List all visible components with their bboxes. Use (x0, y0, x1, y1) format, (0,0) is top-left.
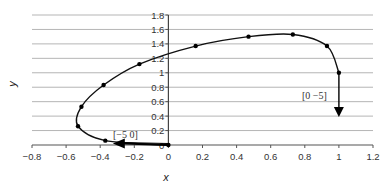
y-tick-label: 0.2 (151, 125, 164, 136)
data-point (246, 34, 250, 38)
data-point (193, 44, 197, 48)
vector-arrows (113, 73, 344, 149)
x-tick-label: 0 (166, 151, 171, 162)
x-tick-label: −0.8 (23, 151, 42, 162)
x-tick-label: 0.6 (264, 151, 277, 162)
y-tick-label: 0.4 (151, 111, 164, 122)
x-tick-label: 1.2 (366, 151, 379, 162)
axes (32, 15, 373, 148)
data-point (137, 62, 141, 66)
tick-labels: 00.20.40.60.811.21.41.61.8−0.8−0.6−0.4−0… (23, 10, 380, 163)
x-tick-label: 0.4 (230, 151, 243, 162)
data-point (325, 44, 329, 48)
data-point (291, 32, 295, 36)
x-tick-label: 1 (336, 151, 341, 162)
y-tick-label: 0.8 (151, 82, 164, 93)
y-tick-label: 1.4 (151, 38, 164, 49)
data-point (76, 124, 80, 128)
vector-label-down: [0 −5] (302, 90, 327, 101)
data-point (79, 105, 83, 109)
arrow-left-icon (113, 139, 125, 149)
x-axis-title: x (162, 171, 169, 183)
gridlines (32, 15, 373, 131)
x-tick-label: −0.6 (57, 151, 76, 162)
x-tick-label: −0.4 (91, 151, 110, 162)
trajectory-chart: 00.20.40.60.811.21.41.61.8−0.8−0.6−0.4−0… (0, 0, 390, 186)
x-tick-label: 0.2 (196, 151, 209, 162)
data-point (103, 138, 107, 142)
y-tick-label: 1 (159, 67, 164, 78)
y-tick-label: 0.6 (151, 96, 164, 107)
data-point (101, 83, 105, 87)
y-tick-label: 1.8 (151, 10, 164, 21)
y-axis-title: y (6, 80, 18, 88)
y-tick-label: 1.6 (151, 24, 164, 35)
x-tick-label: 0.8 (298, 151, 311, 162)
x-tick-label: −0.2 (125, 151, 144, 162)
vector-label-left: [−5 0] (113, 129, 138, 140)
